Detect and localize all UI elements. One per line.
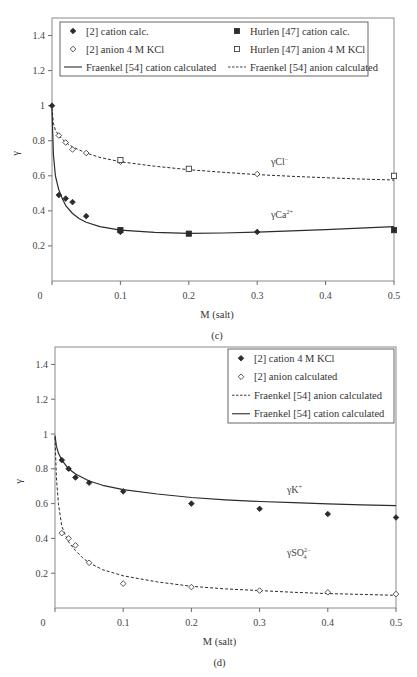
figure-canvas: 0.20.40.60.811.21.400.10.20.30.40.5M (sa… [0,0,417,677]
y-tick-label: 0.8 [36,463,49,474]
legend-label: [2] cation calc. [86,26,149,37]
y-tick-label: 1.2 [36,394,49,405]
y-tick-label: 0.2 [33,240,46,251]
data-point [66,536,72,542]
chart-panel-c: 0.20.40.60.811.21.400.10.20.30.40.5M (sa… [10,18,400,342]
solid-series-line [55,436,396,506]
data-point [83,213,89,219]
y-tick-label: 0.8 [33,135,46,146]
x-axis-title: M (salt) [203,636,237,648]
square-open-icon [234,46,239,51]
data-point [189,584,195,590]
x-tick-label: 0.5 [388,290,401,301]
dashed-series-line [52,107,394,180]
data-point [86,480,92,486]
legend-label: [2] cation 4 M KCl [254,353,335,364]
legend-item: Hurlen [47] cation calc. [234,26,349,37]
square-filled-icon [234,28,239,33]
data-point [254,171,260,177]
data-point [186,231,191,236]
legend-item: Fraenkel [54] cation calculated [232,408,385,419]
data-point [118,228,123,233]
data-point [59,530,65,536]
legend-item: Fraenkel [54] anion calculated [232,390,383,401]
x-axis-title: M (salt) [200,309,234,321]
x-tick-label: 0.3 [251,290,264,301]
chart-panel-d: 0.20.40.60.811.21.400.10.20.30.40.5M (sa… [13,347,402,669]
data-point [325,590,331,596]
legend-label: Hurlen [47] anion 4 M KCl [250,44,365,55]
legend-item: Hurlen [47] anion 4 M KCl [234,44,365,55]
data-point [83,150,89,156]
data-point [257,506,263,512]
data-point [49,103,55,109]
y-tick-label: 1.2 [33,65,46,76]
x-tick-label: 0 [41,617,46,628]
y-tick-label: 0.4 [36,533,49,544]
x-tick-label: 0 [38,290,43,301]
x-tick-label: 0.3 [253,617,266,628]
x-tick-label: 0.2 [185,617,198,628]
legend-item: [2] anion calculated [238,371,338,382]
legend-label: Fraenkel [54] anion calculated [254,390,383,401]
legend-label: Fraenkel [54] cation calculated [86,62,217,73]
legend-label: Fraenkel [54] anion calculated [250,62,379,73]
y-tick-label: 0.4 [33,205,46,216]
x-tick-label: 0.2 [183,290,196,301]
data-point [186,166,191,171]
data-point [325,511,331,517]
legend-item: Fraenkel [54] cation calculated [64,62,217,73]
y-tick-label: 0.6 [33,170,46,181]
panel-label: (c) [211,330,223,342]
curve-annotation: γCl− [270,156,289,167]
data-point [70,199,76,205]
solid-series-line [52,109,394,233]
y-tick-label: 1 [40,100,45,111]
data-point [70,147,76,153]
y-axis-title: γ [13,479,24,485]
data-point [393,591,399,597]
panel-label: (d) [213,657,226,669]
x-tick-label: 0.4 [322,617,335,628]
chart-legend: [2] cation calc.Hurlen [47] cation calc.… [60,22,379,76]
legend-label: [2] anion calculated [254,371,338,382]
data-point [118,157,123,162]
legend-item: Fraenkel [54] anion calculated [228,62,379,73]
x-tick-label: 0.1 [114,290,127,301]
data-point [391,228,396,233]
curve-annotation: γSO2−4 [286,547,311,560]
x-tick-label: 0.4 [319,290,332,301]
data-point [393,515,399,521]
curve-annotation: γK+ [286,484,303,495]
legend-label: Fraenkel [54] cation calculated [254,408,385,419]
y-tick-label: 1 [43,429,48,440]
data-point [120,581,126,587]
y-axis-title: γ [10,151,21,157]
dashed-series-line [55,438,396,596]
data-point [189,501,195,507]
data-point [391,173,396,178]
data-point [254,229,260,235]
y-tick-label: 0.6 [36,498,49,509]
x-tick-label: 0.1 [117,617,130,628]
x-tick-label: 0.5 [390,617,403,628]
legend-label: Hurlen [47] cation calc. [250,26,350,37]
data-point [56,192,62,198]
y-tick-label: 1.4 [33,30,46,41]
curve-annotation: γCa2+ [270,209,294,220]
legend-label: [2] anion 4 M KCl [86,44,164,55]
y-tick-label: 1.4 [36,359,49,370]
data-point [257,588,263,594]
chart-legend: [2] cation 4 M KCl[2] anion calculatedFr… [228,349,394,423]
data-point [73,543,79,549]
y-tick-label: 0.2 [36,568,49,579]
